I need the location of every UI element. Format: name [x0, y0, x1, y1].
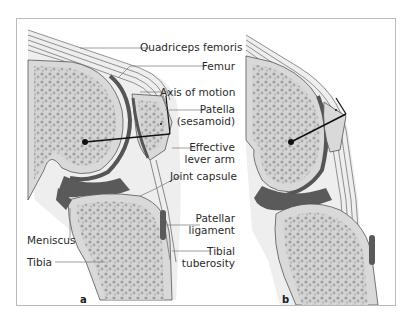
panel-b-drawing [246, 35, 378, 305]
label-quadriceps-femoris: Quadriceps femoris [140, 41, 235, 53]
panel-tag-b: b [282, 294, 289, 305]
label-ligament: ligament [180, 224, 235, 236]
panel-tag-a: a [80, 294, 87, 305]
label-patellar: Patellar [185, 212, 235, 224]
label-lever-arm: lever arm [180, 153, 235, 165]
label-effective: Effective [180, 141, 235, 153]
label-meniscus: Meniscus [27, 234, 75, 246]
label-tibia: Tibia [27, 256, 52, 268]
label-axis-of-motion: Axis of motion [160, 86, 235, 98]
label-patella: Patella [185, 103, 235, 115]
label-tuberosity: tuberosity [175, 257, 235, 269]
label-sesamoid: (sesamoid) [175, 115, 235, 127]
label-tibial: Tibial [190, 245, 235, 257]
label-joint-capsule: Joint capsule [170, 170, 235, 182]
label-femur: Femur [195, 60, 235, 72]
